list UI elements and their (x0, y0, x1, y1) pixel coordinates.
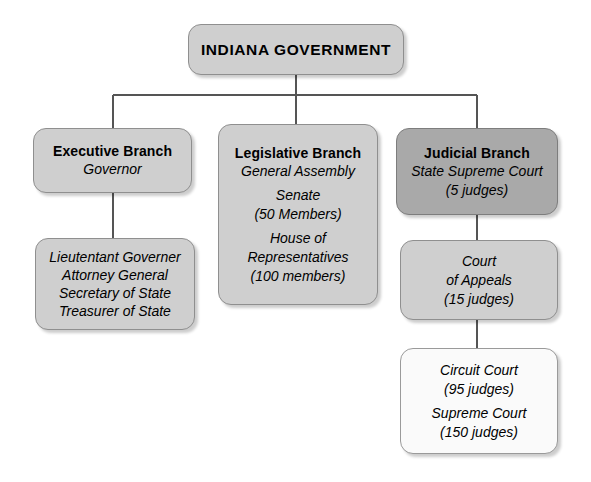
org-chart-canvas: INDIANA GOVERNMENT Executive Branch Gove… (0, 0, 591, 482)
node-legislative-branch-line-2: (50 Members) (254, 205, 341, 224)
node-legislative-branch-line-1: Senate (276, 186, 320, 205)
node-executive-branch[interactable]: Executive Branch Governor (33, 128, 192, 193)
node-indiana-government[interactable]: INDIANA GOVERNMENT (188, 24, 404, 75)
node-executive-officers-line-0: Lieutentant Governer (49, 248, 181, 266)
node-executive-officers-line-2: Secretary of State (59, 284, 171, 302)
node-executive-branch-line-0: Governor (83, 160, 141, 179)
node-court-of-appeals-line-2: (15 judges) (444, 290, 514, 309)
node-judicial-branch-title: Judicial Branch (424, 144, 530, 162)
node-legislative-branch-line-0: General Assembly (241, 162, 355, 181)
node-executive-officers-line-3: Treasurer of State (59, 302, 171, 320)
node-judicial-branch-line-0: State Supreme Court (411, 162, 543, 181)
node-lower-courts-lines: Circuit Court (95 judges) Supreme Court … (432, 361, 527, 442)
node-court-of-appeals[interactable]: Court of Appeals (15 judges) (400, 240, 558, 320)
node-executive-officers-line-1: Attorney General (62, 266, 168, 284)
node-executive-branch-title: Executive Branch (53, 142, 172, 160)
node-lower-courts-line-2: Supreme Court (432, 404, 527, 423)
node-legislative-branch-line-3: House of (270, 229, 326, 248)
node-judicial-branch[interactable]: Judicial Branch State Supreme Court (5 j… (396, 128, 558, 215)
node-lower-courts-line-1: (95 judges) (444, 380, 514, 399)
node-legislative-branch-title: Legislative Branch (235, 144, 361, 162)
node-lower-courts-line-0: Circuit Court (440, 361, 518, 380)
node-legislative-branch-line-5: (100 members) (251, 267, 346, 286)
node-indiana-government-title: INDIANA GOVERNMENT (201, 41, 391, 59)
node-legislative-branch-lines: General Assembly Senate (50 Members) Hou… (241, 162, 355, 286)
node-judicial-branch-line-1: (5 judges) (446, 181, 508, 200)
node-court-of-appeals-line-1: of Appeals (446, 271, 512, 290)
node-legislative-branch-line-4: Representatives (247, 248, 348, 267)
node-lower-courts-line-3: (150 judges) (440, 423, 518, 442)
node-legislative-branch[interactable]: Legislative Branch General Assembly Sena… (218, 124, 378, 305)
node-court-of-appeals-line-0: Court (462, 252, 496, 271)
node-lower-courts[interactable]: Circuit Court (95 judges) Supreme Court … (400, 348, 558, 454)
node-executive-officers[interactable]: Lieutentant Governer Attorney General Se… (35, 238, 195, 330)
